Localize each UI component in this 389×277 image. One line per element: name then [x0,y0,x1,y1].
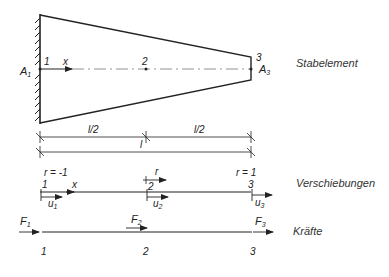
node-2-label: 2 [142,57,148,67]
bar-element-diagram [0,0,389,277]
u1-label: u1 [48,199,57,210]
dim-half-right: l/2 [194,125,205,135]
r-label: r [155,167,158,177]
r-axis-arrow [143,176,166,184]
u2-label: u2 [153,199,162,210]
center-axis-line [39,68,253,71]
area-a1-label: A1 [20,66,31,78]
dim-half-left: l/2 [88,125,99,135]
force-node-3: 3 [250,247,256,257]
u3-label: u3 [255,198,264,209]
dimension-lines [36,131,255,158]
x-axis-label: x [63,57,68,67]
disp-x-label: x [72,180,77,190]
node-1-label: 1 [44,57,50,67]
disp-node-2: 2 [148,182,154,192]
caption-kraefte: Kräfte [293,226,322,237]
disp-node-1: 1 [42,180,48,190]
f1-label: F1 [20,216,31,228]
f3-label: F3 [255,216,266,228]
dim-total: l [140,140,142,150]
caption-verschiebungen: Verschiebungen [296,178,375,189]
disp-node-3: 3 [248,180,254,190]
node-3-label: 3 [256,53,262,63]
f2-label: F2 [131,214,142,226]
r-minus-one-label: r = -1 [44,168,68,178]
r-plus-one-label: r = 1 [236,168,256,178]
force-line [19,228,273,232]
area-a3-label: A3 [259,64,270,76]
caption-stabelement: Stabelement [296,58,358,69]
force-node-1: 1 [41,247,47,257]
force-node-2: 2 [143,247,149,257]
